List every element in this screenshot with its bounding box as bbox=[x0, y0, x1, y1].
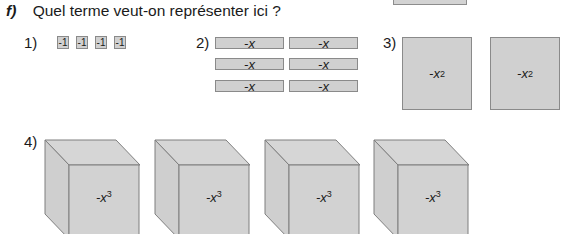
x-cubed-block: -x3 bbox=[154, 139, 250, 234]
exercise-letter: f) bbox=[6, 2, 16, 19]
item-2-label: 2) bbox=[196, 34, 209, 51]
term-base: -x bbox=[206, 190, 217, 205]
term-base: -x bbox=[429, 66, 440, 81]
x-tile: -x bbox=[289, 37, 358, 49]
previous-figure-fragment bbox=[393, 0, 467, 5]
unit-tile: -1 bbox=[114, 36, 126, 49]
x-tile: -x bbox=[289, 58, 358, 70]
x-squared-tile: -x2 bbox=[490, 37, 560, 110]
cube-shape bbox=[154, 139, 250, 234]
term-label: -x3 bbox=[206, 189, 222, 205]
term-base: -x bbox=[96, 190, 107, 205]
term-base: -x bbox=[425, 190, 436, 205]
term-label: -x3 bbox=[96, 189, 112, 205]
term-exponent: 3 bbox=[327, 189, 332, 199]
term-exponent: 2 bbox=[440, 69, 445, 79]
x-cubed-block: -x3 bbox=[264, 139, 360, 234]
term-label: -x3 bbox=[425, 189, 441, 205]
item-4-label: 4) bbox=[24, 133, 37, 150]
term-exponent: 3 bbox=[436, 189, 441, 199]
x-tile: -x bbox=[215, 37, 284, 49]
item-3-label: 3) bbox=[383, 34, 396, 51]
term-exponent: 3 bbox=[107, 189, 112, 199]
term-base: -x bbox=[316, 190, 327, 205]
x-tile: -x bbox=[215, 58, 284, 70]
unit-tile: -1 bbox=[57, 36, 69, 49]
term-label: -x3 bbox=[316, 189, 332, 205]
term-exponent: 2 bbox=[528, 69, 533, 79]
term-base: -x bbox=[517, 66, 528, 81]
x-tile: -x bbox=[289, 80, 358, 92]
term-exponent: 3 bbox=[217, 189, 222, 199]
x-squared-tile: -x2 bbox=[402, 37, 472, 110]
cube-shape bbox=[373, 139, 469, 234]
unit-tile: -1 bbox=[95, 36, 107, 49]
item-1-label: 1) bbox=[24, 34, 37, 51]
x-tile: -x bbox=[215, 80, 284, 92]
cube-shape bbox=[44, 139, 140, 234]
x-cubed-block: -x3 bbox=[373, 139, 469, 234]
question-heading: f) Quel terme veut-on représenter ici ? bbox=[6, 2, 281, 20]
unit-tile: -1 bbox=[76, 36, 88, 49]
question-text: Quel terme veut-on représenter ici ? bbox=[33, 2, 281, 19]
cube-shape bbox=[264, 139, 360, 234]
x-cubed-block: -x3 bbox=[44, 139, 140, 234]
